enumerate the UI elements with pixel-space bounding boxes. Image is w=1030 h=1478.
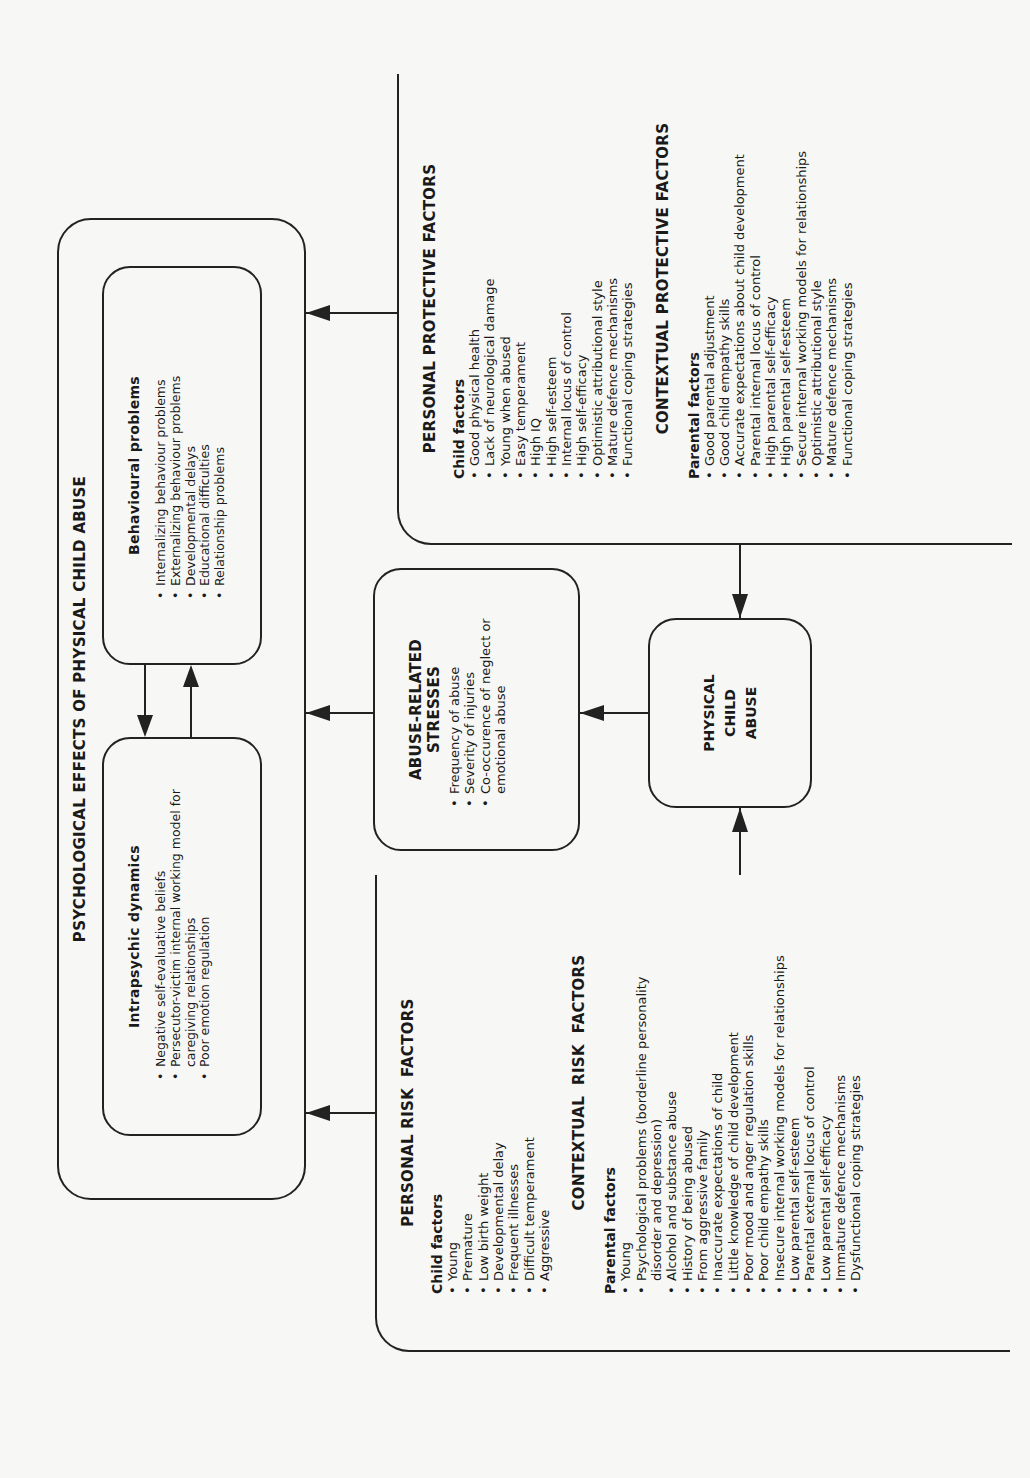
risk-factors-box: PERSONAL RISK FACTORS Child factors Youn… [375, 875, 1010, 1352]
list-item: From aggressive family [695, 934, 710, 1294]
arrowhead-up-icon [580, 705, 604, 721]
physical-child-abuse-line2: CHILD [720, 689, 741, 737]
arrowhead-left-icon [732, 594, 748, 618]
arrowhead-up-icon [306, 305, 330, 321]
list-item: Easy temperament [513, 74, 528, 479]
list-item: Alcohol and substance abuse [664, 934, 679, 1294]
list-item: Frequency of abuse [447, 590, 462, 807]
list-item: Young [445, 875, 460, 1294]
list-item: Difficult temperament [522, 875, 537, 1294]
list-item: High parental self-esteem [778, 74, 793, 479]
list-item: Externalizing behaviour problems [169, 268, 184, 599]
list-item: Optimistic attributional style [590, 74, 605, 479]
list-item: Secure internal working models for relat… [794, 74, 809, 479]
list-item: Insecure internal working models for rel… [772, 934, 787, 1294]
list-item: Accurate expectations about child develo… [732, 74, 747, 479]
parental-factors-label: Parental factors [686, 74, 702, 479]
risk-child-list: Young Premature Low birth weight Develop… [445, 875, 552, 1294]
parental-factors-label: Parental factors [602, 875, 618, 1294]
arrowhead-left-icon [137, 715, 153, 737]
intrapsychic-dynamics-title: Intrapsychic dynamics [126, 739, 142, 1134]
arrowhead-right-icon [732, 808, 748, 832]
list-item: Good physical health [467, 74, 482, 479]
list-item: Good child empathy skills [717, 74, 732, 479]
list-item: Poor mood and anger regulation skills [741, 934, 756, 1294]
arrowhead-up-icon [306, 1105, 330, 1121]
list-item: Negative self-evaluative beliefs [154, 759, 169, 1080]
behavioural-problems-title: Behavioural problems [126, 268, 142, 663]
list-item: Immature defence mechanisms [833, 934, 848, 1294]
contextual-protective-title: CONTEXTUAL PROTECTIVE FACTORS [654, 74, 672, 543]
list-item: High parental self-efficacy [763, 74, 778, 479]
physical-child-abuse-line1: PHYSICAL [699, 674, 720, 751]
list-item: Poor child empathy skills [756, 934, 771, 1294]
list-item: Severity of injuries [462, 590, 477, 807]
psychological-effects-title: PSYCHOLOGICAL EFFECTS OF PHYSICAL CHILD … [71, 220, 89, 1198]
intrapsychic-dynamics-list: Negative self-evaluative beliefs Persecu… [154, 759, 213, 1080]
list-item: Developmental delay [491, 875, 506, 1294]
list-item: High self-esteem [544, 74, 559, 479]
list-item: Inaccurate expectations of child [710, 934, 725, 1294]
intrapsychic-dynamics-box: Intrapsychic dynamics Negative self-eval… [102, 737, 262, 1136]
list-item: Young [618, 934, 633, 1294]
list-item: Internalizing behaviour problems [154, 268, 169, 599]
list-item: Good parental adjustment [702, 74, 717, 479]
arrowhead-up-icon [306, 705, 330, 721]
abuse-related-stresses-list: Frequency of abuse Severity of injuries … [447, 590, 508, 807]
abuse-related-stresses-box: ABUSE-RELATED STRESSES Frequency of abus… [373, 568, 580, 851]
list-item: Co-occurence of neglect or emotional abu… [478, 590, 509, 807]
list-item: Lack of neurological damage [482, 74, 497, 479]
list-item: Optimistic attributional style [809, 74, 824, 479]
list-item: Mature defence mechanisms [824, 74, 839, 479]
list-item: Low birth weight [476, 875, 491, 1294]
child-factors-label: Child factors [451, 74, 467, 479]
rotated-diagram: PSYCHOLOGICAL EFFECTS OF PHYSICAL CHILD … [0, 0, 1030, 1478]
risk-parent-list: Young Psychological problems (borderline… [618, 934, 863, 1294]
contextual-risk-title: CONTEXTUAL RISK FACTORS [570, 875, 588, 1350]
list-item: History of being abused [680, 934, 695, 1294]
list-item: High self-efficacy [574, 74, 589, 479]
list-item: Persecutor-victim internal working model… [169, 759, 199, 1080]
list-item: High IQ [528, 74, 543, 479]
list-item: Young when abused [498, 74, 513, 479]
physical-child-abuse-line3: ABUSE [741, 687, 762, 740]
list-item: Premature [460, 875, 475, 1294]
abuse-related-stresses-title: ABUSE-RELATED STRESSES [407, 610, 443, 809]
behavioural-problems-list: Internalizing behaviour problems Externa… [154, 268, 228, 599]
protective-child-list: Good physical health Lack of neurologica… [467, 74, 636, 479]
list-item: Educational difficulties [198, 268, 213, 599]
list-item: Parental external locus of control [802, 934, 817, 1294]
list-item: Poor emotion regulation [198, 759, 213, 1080]
protective-parent-list: Good parental adjustment Good child empa… [702, 74, 855, 479]
list-item: Psychological problems (borderline perso… [634, 934, 665, 1294]
list-item: Functional coping strategies [620, 74, 635, 479]
list-item: Internal locus of control [559, 74, 574, 479]
personal-risk-title: PERSONAL RISK FACTORS [399, 875, 417, 1350]
personal-protective-title: PERSONAL PROTECTIVE FACTORS [421, 74, 439, 543]
list-item: Dysfunctional coping strategies [848, 934, 863, 1294]
list-item: Frequent illnesses [506, 875, 521, 1294]
list-item: Mature defence mechanisms [605, 74, 620, 479]
list-item: Low parental self-efficacy [818, 934, 833, 1294]
protective-factors-box: PERSONAL PROTECTIVE FACTORS Child factor… [397, 74, 1012, 545]
physical-child-abuse-box: PHYSICAL CHILD ABUSE [648, 618, 812, 808]
arrowhead-right-icon [183, 665, 199, 687]
child-factors-label: Child factors [429, 875, 445, 1294]
list-item: Parental internal locus of control [748, 74, 763, 479]
list-item: Low parental self-esteem [787, 934, 802, 1294]
list-item: Little knowledge of child development [726, 934, 741, 1294]
behavioural-problems-box: Behavioural problems Internalizing behav… [102, 266, 262, 665]
list-item: Functional coping strategies [840, 74, 855, 479]
list-item: Relationship problems [213, 268, 228, 599]
list-item: Developmental delays [184, 268, 199, 599]
list-item: Aggressive [537, 875, 552, 1294]
